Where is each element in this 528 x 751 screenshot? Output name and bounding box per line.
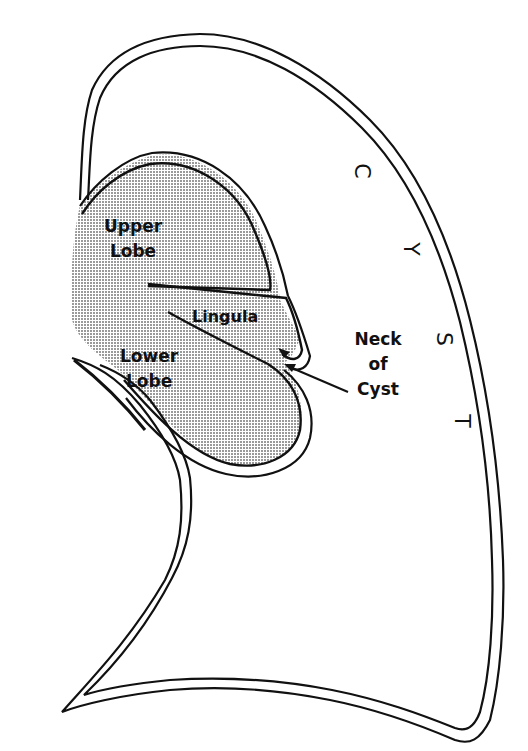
cyst-letter-c: C [351, 163, 373, 178]
cyst-letter-c-text: C [350, 163, 375, 178]
neck-label-line1: Neck [348, 331, 408, 348]
neck-of-cyst-label: Neck of Cyst [348, 331, 408, 398]
cyst-letter-t: T [451, 414, 473, 427]
neck-label-line2: of [348, 356, 408, 373]
lower-lobe-label: Lower Lobe [120, 348, 178, 390]
lingula-label: Lingula [192, 309, 258, 325]
lower-lobe-label-line1: Lower [120, 348, 178, 365]
lingula-label-text: Lingula [192, 307, 258, 326]
cyst-letter-s: S [433, 332, 455, 346]
upper-lobe-label: Upper Lobe [104, 218, 162, 260]
upper-lobe-label-line1: Upper [104, 218, 162, 235]
cyst-letter-t-text: T [450, 414, 475, 427]
lung-cyst-diagram [0, 0, 528, 751]
upper-lobe-label-line2: Lobe [104, 243, 162, 260]
cyst-letter-s-text: S [432, 332, 457, 346]
lower-lobe-label-line2: Lobe [120, 373, 178, 390]
cyst-letter-y: Y [400, 242, 422, 255]
neck-label-line3: Cyst [348, 381, 408, 398]
cyst-letter-y-text: Y [399, 242, 424, 255]
lung-shaded-region [71, 154, 301, 466]
